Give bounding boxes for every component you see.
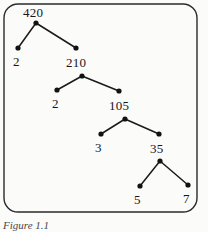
tree-node-dot-layer	[15, 20, 190, 188]
tree-edge	[101, 119, 125, 134]
tree-node-label: 35	[150, 142, 163, 155]
figure-border-group	[4, 4, 197, 212]
tree-node-dot	[73, 45, 78, 50]
tree-node-dot	[137, 183, 142, 188]
figure-caption: Figure 1.1	[3, 219, 49, 231]
tree-edge	[160, 161, 188, 185]
tree-node-dot	[157, 158, 162, 163]
figure-container: 4202210210533557 Figure 1.1	[0, 0, 208, 232]
tree-edge	[18, 23, 36, 48]
tree-edge	[57, 76, 82, 90]
factor-tree-diagram	[0, 0, 208, 232]
tree-node-dot	[54, 87, 59, 92]
tree-node-label: 210	[66, 56, 86, 69]
tree-edge	[140, 161, 160, 186]
tree-node-dot	[79, 73, 84, 78]
tree-node-label: 2	[13, 55, 20, 68]
tree-node-label: 7	[183, 192, 190, 205]
tree-node-label: 420	[23, 6, 43, 19]
tree-node-dot	[33, 20, 38, 25]
tree-node-dot	[98, 131, 103, 136]
tree-node-dot	[185, 182, 190, 187]
tree-node-dot	[122, 116, 127, 121]
tree-node-label: 2	[52, 97, 59, 110]
tree-edge	[36, 23, 76, 48]
tree-node-label: 3	[95, 141, 102, 154]
tree-edge	[125, 119, 159, 134]
tree-node-dot	[116, 88, 121, 93]
tree-node-dot	[15, 45, 20, 50]
tree-node-dot	[156, 131, 161, 136]
tree-edge	[82, 76, 119, 91]
figure-border-rect	[4, 4, 197, 212]
tree-node-label: 5	[134, 193, 141, 206]
tree-node-label: 105	[109, 99, 129, 112]
